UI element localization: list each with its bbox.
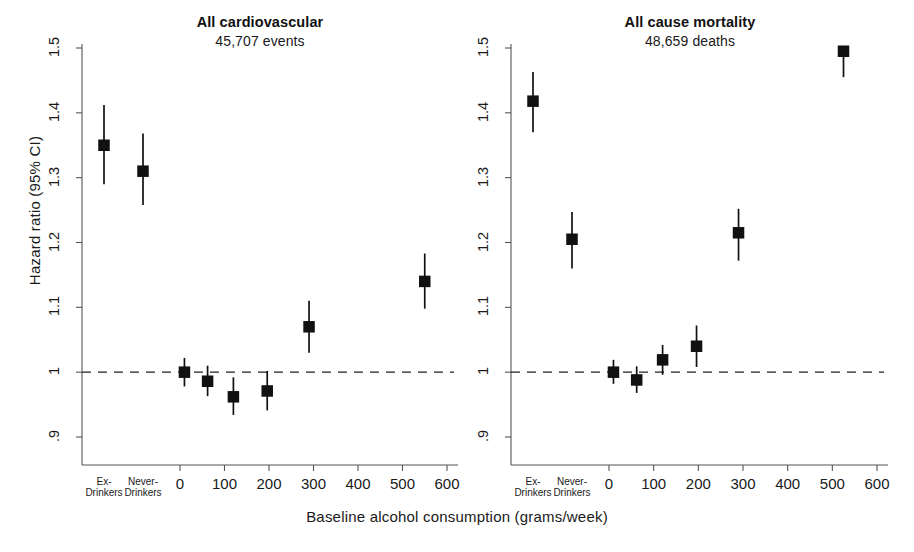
panel-title: All cardiovascular: [60, 14, 460, 30]
y-tick-label: 1.4: [46, 92, 62, 132]
x-category-label: Never-Drinkers: [113, 476, 173, 498]
y-tick-label: .9: [46, 416, 62, 456]
y-tick-label: 1.1: [46, 286, 62, 326]
y-tick-label: 1.3: [46, 157, 62, 197]
x-category-label: Never-Drinkers: [542, 476, 602, 498]
forest-plot-figure: Hazard ratio (95% CI) All cardiovascular…: [0, 0, 914, 552]
y-tick-label: 1.1: [475, 286, 491, 326]
panel-all-cardiovascular: All cardiovascular 45,707 events: [60, 0, 460, 552]
x-tick-label: 400: [763, 475, 813, 492]
y-tick-label: 1.4: [475, 92, 491, 132]
y-tick-label: 1.5: [46, 27, 62, 67]
x-tick-label: 200: [244, 475, 294, 492]
x-category-label-line2: Drinkers: [113, 487, 173, 498]
x-tick-label: 600: [422, 475, 472, 492]
x-tick-label: 500: [378, 475, 428, 492]
x-tick-label: 400: [333, 475, 383, 492]
y-axis-label: Hazard ratio (95% CI): [26, 81, 43, 341]
panel-all-cause-mortality: All cause mortality 48,659 deaths: [490, 0, 890, 552]
y-tick-label: 1: [46, 351, 62, 391]
y-tick-label: 1.3: [475, 157, 491, 197]
x-tick-label: 100: [629, 475, 679, 492]
x-tick-label: 200: [673, 475, 723, 492]
y-tick-label: 1.2: [46, 222, 62, 262]
x-tick-label: 600: [852, 475, 902, 492]
x-category-label-line1: Never-: [113, 476, 173, 487]
panel-subtitle: 48,659 deaths: [490, 33, 890, 49]
x-tick-label: 100: [200, 475, 250, 492]
x-tick-label: 300: [718, 475, 768, 492]
x-tick-label: 300: [289, 475, 339, 492]
y-tick-label: 1.5: [475, 27, 491, 67]
y-tick-label: 1: [475, 351, 491, 391]
panel-subtitle: 45,707 events: [60, 33, 460, 49]
y-tick-label: .9: [475, 416, 491, 456]
x-axis-label: Baseline alcohol consumption (grams/week…: [0, 508, 914, 525]
x-tick-label: 500: [807, 475, 857, 492]
panel-title: All cause mortality: [490, 14, 890, 30]
y-tick-label: 1.2: [475, 222, 491, 262]
x-category-label-line1: Never-: [542, 476, 602, 487]
x-category-label-line2: Drinkers: [542, 487, 602, 498]
